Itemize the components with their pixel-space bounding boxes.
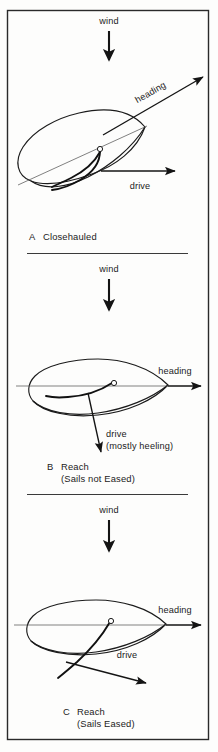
hull-deck-line-a (31, 127, 145, 187)
panel-reach-eased: wind heading drive C Reach (Sails Eased) (14, 505, 201, 729)
drive-label-c: drive (117, 650, 138, 660)
heading-label-b: heading (158, 366, 192, 376)
drive-sublabel-b: (mostly heeling) (106, 441, 173, 451)
panel-letter-a: A (29, 231, 36, 242)
wind-label-a: wind (98, 16, 119, 26)
wind-label-c: wind (98, 505, 119, 515)
panel-reach-not-eased: wind heading drive (mostly heeling) B Re… (16, 264, 201, 484)
panel-letter-c: C (63, 706, 70, 717)
hull-outline-c (27, 600, 166, 655)
drive-arrow-b (88, 393, 101, 452)
sailing-diagram-figure: wind heading drive A Closehauled (0, 0, 218, 752)
wind-label-b: wind (98, 264, 119, 274)
panel-letter-b: B (47, 461, 53, 472)
diagram-canvas: wind heading drive A Closehauled (0, 0, 218, 752)
drive-label-b: drive (106, 429, 127, 439)
panel-caption-c: Reach (77, 706, 105, 717)
mast-circle-c (108, 618, 113, 623)
drive-arrow-c (66, 662, 146, 683)
panel-caption-b: Reach (61, 461, 89, 472)
hull-outline-b (29, 359, 168, 416)
mast-circle-b (111, 380, 116, 385)
panel-closehauled: wind heading drive A Closehauled (18, 16, 203, 242)
panel-caption2-b: (Sails not Eased) (61, 473, 135, 484)
heading-label-c: heading (158, 605, 192, 615)
centerline-a (18, 126, 147, 185)
panel-caption2-c: (Sails Eased) (77, 718, 135, 729)
panel-caption-a: Closehauled (43, 231, 97, 242)
sail-curve-c (58, 622, 110, 678)
sail-curve-b (46, 383, 112, 397)
mast-circle-a (97, 146, 102, 151)
drive-label-a: drive (130, 181, 151, 191)
